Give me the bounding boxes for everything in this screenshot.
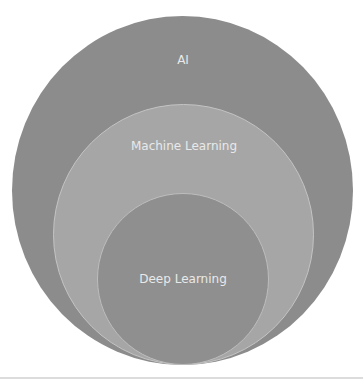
deep-learning-label: Deep Learning (139, 272, 227, 286)
bottom-divider (0, 377, 363, 379)
nested-venn-diagram: AI Machine Learning Deep Learning (0, 0, 363, 385)
machine-learning-label: Machine Learning (131, 139, 237, 153)
ai-label: AI (177, 53, 189, 67)
